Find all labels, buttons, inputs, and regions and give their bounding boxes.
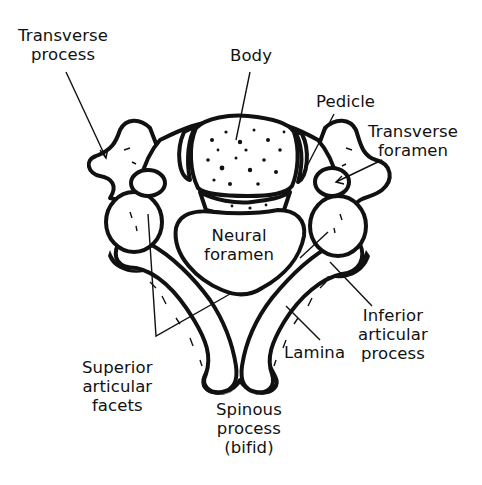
label-spinous-process: Spinous process (bifid) [216,400,282,457]
label-line: Neural [204,226,274,245]
label-line: Lamina [284,343,345,362]
label-lamina: Lamina [284,343,345,362]
label-line: process [18,45,108,64]
label-line: foramen [204,245,274,264]
label-line: (bifid) [216,438,282,457]
left-superior-articular-facet-shape [106,192,162,252]
label-line: facets [82,396,153,415]
right-superior-articular-facet-shape [310,196,366,256]
label-inferior-articular-process: Inferior articular process [358,306,428,363]
label-line: Transverse [368,122,458,141]
label-line: Superior [82,358,153,377]
label-line: process [358,344,428,363]
vertebral-body-shape [191,116,298,197]
label-line: Body [230,46,272,65]
label-neural-foramen: Neural foramen [204,226,274,264]
leader-lamina [286,306,320,340]
leader-transverse-process [66,72,106,158]
label-line: Pedicle [316,92,375,111]
label-line: Inferior [358,306,428,325]
label-line: Transverse [18,26,108,45]
label-superior-articular-facets: Superior articular facets [82,358,153,415]
label-line: articular [358,325,428,344]
label-line: Spinous [216,400,282,419]
left-transverse-foramen-shape [131,170,165,196]
label-transverse-foramen: Transverse foramen [368,122,458,160]
label-line: foramen [368,141,458,160]
label-line: articular [82,377,153,396]
label-transverse-process: Transverse process [18,26,108,64]
label-line: process [216,419,282,438]
vertebra-diagram: Transverse process Body Pedicle Transver… [0,0,482,485]
label-pedicle: Pedicle [316,92,375,111]
label-body: Body [230,46,272,65]
right-transverse-foramen-shape [315,168,349,196]
